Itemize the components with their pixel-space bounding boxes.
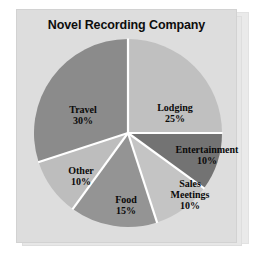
- pie-chart-figure: Novel Recording Company Travel 30% Lodgi…: [0, 0, 256, 262]
- pie-plot-area: Travel 30% Lodging 25% Entertainment 10%…: [16, 9, 237, 243]
- pie-svg: [16, 9, 237, 243]
- pie-slice-lodging: [128, 39, 222, 133]
